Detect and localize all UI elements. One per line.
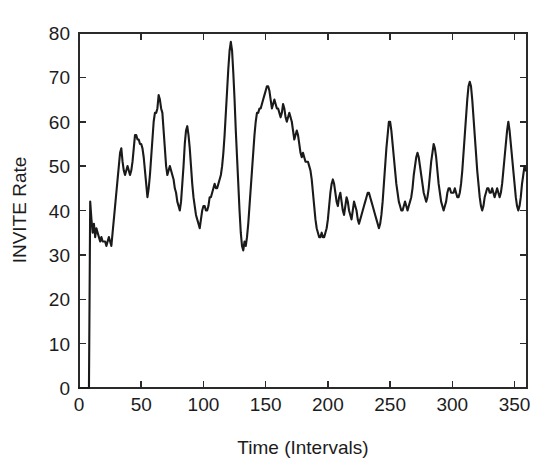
x-tick-label: 100 [188, 394, 220, 415]
y-tick-label: 80 [49, 23, 70, 44]
x-axis-ticks [79, 33, 515, 388]
y-axis-title: INVITE Rate [9, 157, 30, 264]
x-tick-label: 50 [131, 394, 152, 415]
data-series-line [79, 42, 526, 388]
figure-container: 050100150200250300350 01020304050607080 … [0, 0, 556, 461]
x-tick-label: 350 [499, 394, 531, 415]
y-axis-tick-labels: 01020304050607080 [49, 23, 70, 399]
y-tick-label: 30 [49, 245, 70, 266]
x-tick-label: 300 [436, 394, 468, 415]
x-tick-label: 0 [74, 394, 85, 415]
y-tick-label: 50 [49, 156, 70, 177]
x-axis-tick-labels: 050100150200250300350 [74, 394, 531, 415]
x-axis-title: Time (Intervals) [237, 437, 368, 458]
y-tick-label: 10 [49, 334, 70, 355]
plot-frame [79, 33, 527, 388]
y-tick-label: 40 [49, 201, 70, 222]
y-tick-label: 60 [49, 112, 70, 133]
x-tick-label: 200 [312, 394, 344, 415]
y-tick-label: 20 [49, 289, 70, 310]
x-tick-label: 150 [250, 394, 282, 415]
y-axis-ticks [79, 33, 527, 388]
line-chart: 050100150200250300350 01020304050607080 … [0, 0, 556, 461]
y-tick-label: 70 [49, 67, 70, 88]
x-tick-label: 250 [374, 394, 406, 415]
y-tick-label: 0 [59, 378, 70, 399]
